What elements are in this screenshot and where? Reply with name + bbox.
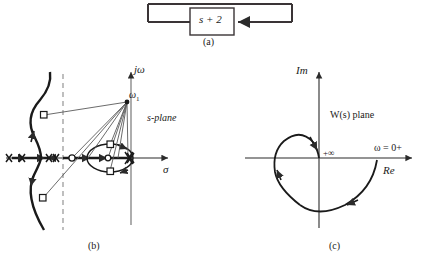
im-axis-label: Im <box>296 64 308 76</box>
caption-a: (a) <box>203 36 214 47</box>
sigma-axis-label: σ <box>163 163 168 175</box>
omega1-symbol: ω <box>129 89 136 100</box>
panel-b-root-locus <box>6 72 168 230</box>
caption-c: (c) <box>329 240 340 251</box>
figure-root: s + 2 (a) jω σ ω1 s-plane (b) Im Re +∞ ω… <box>0 0 429 263</box>
nyquist-arc-upper <box>274 135 319 205</box>
figure-svg <box>0 0 429 263</box>
s-plane-text: s-plane <box>147 112 176 123</box>
w-plane-label: W(s) plane <box>330 109 374 120</box>
caption-b: (b) <box>88 240 100 251</box>
s-plane-label: s-plane <box>147 112 176 123</box>
omega1-subscript: 1 <box>136 95 140 103</box>
jomega-axis-label: jω <box>134 63 145 75</box>
block-transfer-function-label: s + 2 <box>199 13 222 25</box>
re-axis-label: Re <box>383 164 395 176</box>
infinity-label: +∞ <box>323 148 335 158</box>
nyquist-arc-lower <box>300 160 377 212</box>
omega-zero-plus-label: ω = 0+ <box>374 142 402 153</box>
omega1-label: ω1 <box>129 89 140 103</box>
test-point-vectors <box>43 102 128 198</box>
